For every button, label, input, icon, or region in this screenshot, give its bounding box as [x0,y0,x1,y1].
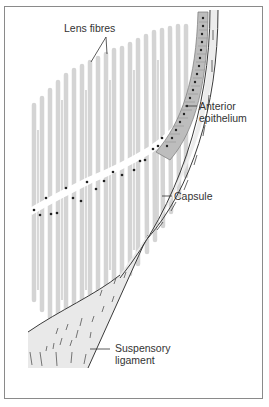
label-capsule: Capsule [174,190,213,202]
label-suspensory-ligament-line2: ligament [115,354,170,366]
label-anterior-epithelium-line2: epithelium [199,112,247,124]
label-suspensory-ligament: Suspensory ligament [115,342,170,366]
lens-diagram: Lens fibres Anterior epithelium Capsule … [0,0,269,407]
label-anterior-epithelium: Anterior epithelium [199,100,247,124]
label-suspensory-ligament-line1: Suspensory [115,342,170,354]
label-anterior-epithelium-line1: Anterior [199,100,247,112]
label-lens-fibres: Lens fibres [64,22,115,34]
